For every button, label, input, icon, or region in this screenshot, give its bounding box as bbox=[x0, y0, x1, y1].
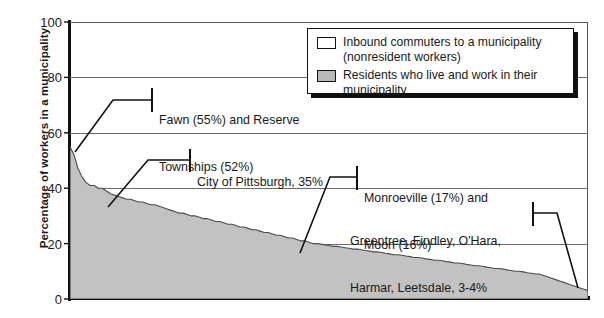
annotation-greentree: Greentree, Findley, O'Hara, Harmar, Leet… bbox=[350, 203, 501, 318]
y-tick-40: 40 bbox=[22, 182, 62, 195]
annotation-fawn-line1: Fawn (55%) and Reserve bbox=[159, 113, 300, 129]
y-tick-100: 100 bbox=[22, 16, 62, 29]
y-axis-tick-labels: 100 80 60 40 20 0 bbox=[22, 0, 62, 318]
annotation-greentree-line2: Harmar, Leetsdale, 3-4% bbox=[350, 281, 501, 297]
y-tick-0: 0 bbox=[22, 293, 62, 306]
annotation-pittsburgh-line1: City of Pittsburgh, 35% bbox=[197, 175, 323, 191]
annotation-pittsburgh: City of Pittsburgh, 35% bbox=[197, 144, 323, 222]
legend-residents-line1: Residents who live and work in their bbox=[343, 68, 537, 82]
legend-residents-line2: municipality bbox=[343, 83, 407, 97]
legend-label-residents: Residents who live and work in theirmuni… bbox=[343, 68, 537, 98]
chart-container: Percentage of workers in a municipality … bbox=[0, 0, 604, 318]
y-tick-80: 80 bbox=[22, 71, 62, 84]
legend-inbound-line2: (nonresident workers) bbox=[343, 50, 461, 64]
legend-inbound-line1: Inbound commuters to a municipality bbox=[343, 35, 541, 49]
legend-swatch-white bbox=[317, 37, 336, 49]
legend-label-inbound: Inbound commuters to a municipality(nonr… bbox=[343, 35, 541, 65]
annotation-greentree-line1: Greentree, Findley, O'Hara, bbox=[350, 234, 501, 250]
y-tick-20: 20 bbox=[22, 238, 62, 251]
chart-legend: Inbound commuters to a municipality(nonr… bbox=[307, 28, 574, 94]
legend-item-residents: Residents who live and work in theirmuni… bbox=[317, 68, 565, 98]
legend-item-inbound: Inbound commuters to a municipality(nonr… bbox=[317, 35, 565, 65]
legend-swatch-gray bbox=[317, 70, 336, 82]
y-tick-60: 60 bbox=[22, 127, 62, 140]
